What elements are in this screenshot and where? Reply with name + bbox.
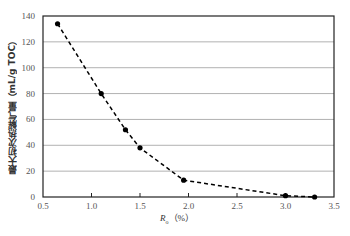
x-tick-label: 3.0 bbox=[280, 201, 292, 211]
y-tick-label: 80 bbox=[26, 89, 36, 99]
data-point-marker bbox=[137, 145, 142, 150]
data-point-marker bbox=[312, 194, 317, 199]
line-chart: 0.51.01.52.02.53.03.5 020406080100120140 bbox=[0, 0, 350, 236]
x-tick-label: 1.0 bbox=[86, 201, 98, 211]
data-point-marker bbox=[55, 21, 60, 26]
data-point-marker bbox=[99, 91, 104, 96]
x-tick-label: 0.5 bbox=[37, 201, 49, 211]
x-tick-label: 2.0 bbox=[183, 201, 195, 211]
x-tick-label: 1.5 bbox=[134, 201, 146, 211]
y-tick-label: 0 bbox=[31, 192, 36, 202]
y-tick-label: 100 bbox=[22, 63, 36, 73]
x-tick-label: 3.5 bbox=[328, 201, 340, 211]
data-point-marker bbox=[123, 127, 128, 132]
x-tick-label: 2.5 bbox=[231, 201, 243, 211]
y-tick-label: 140 bbox=[22, 11, 36, 21]
x-axis-title: Ro（%） bbox=[160, 211, 194, 225]
y-tick-label: 120 bbox=[22, 37, 36, 47]
data-series bbox=[55, 21, 317, 199]
gridlines bbox=[43, 42, 334, 171]
y-tick-label: 40 bbox=[26, 140, 36, 150]
y-tick-label: 60 bbox=[26, 114, 36, 124]
y-axis-title: 最大初次热解气量（mL/g TOC） bbox=[5, 36, 18, 174]
y-axis-ticks: 020406080100120140 bbox=[22, 11, 36, 202]
y-tick-label: 20 bbox=[26, 166, 36, 176]
data-point-marker bbox=[283, 193, 288, 198]
y-axis-title-wrap: 最大初次热解气量（mL/g TOC） bbox=[4, 25, 18, 185]
data-point-marker bbox=[181, 178, 186, 183]
plot-frame bbox=[43, 16, 334, 197]
x-axis-title-unit: （%） bbox=[169, 213, 195, 223]
